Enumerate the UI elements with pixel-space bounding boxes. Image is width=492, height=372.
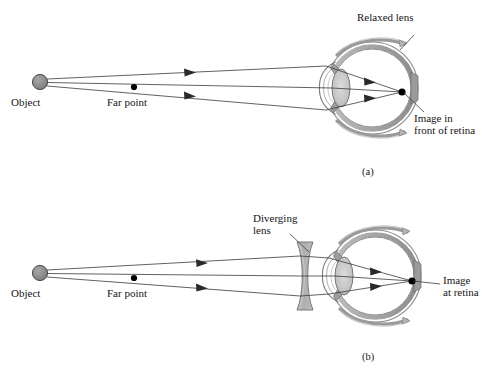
image-label-a-line2: front of retina (414, 124, 475, 136)
far-point-marker-a (131, 84, 137, 90)
far-point-marker-b (131, 275, 137, 281)
far-point-label-b: Far point (107, 287, 147, 299)
image-label-a-line1: Image in (414, 112, 453, 124)
object-marker-a (32, 74, 47, 89)
figure-root: Object Far point Relaxed lens Image in f… (0, 0, 492, 372)
image-label-b-line1: Image (443, 274, 471, 286)
diverging-lens-label-b-line2: lens (253, 224, 271, 236)
ray-axis-incident-b (47, 274, 300, 277)
ray-arrowhead-lower-b (196, 284, 208, 292)
ray-lower-incident-b (47, 277, 300, 296)
ray-axis-incident-a (47, 83, 332, 89)
panel-label-b: (b) (362, 351, 375, 363)
ray-upper-incident-b (47, 256, 300, 270)
diverging-lens-label-b-line1: Diverging (253, 212, 298, 224)
image-label-b-line2: at retina (443, 286, 479, 298)
panel-a: Object Far point Relaxed lens Image in f… (11, 11, 475, 178)
panel-b: Object Far point Diverging lens Image at… (11, 212, 479, 363)
image-point-marker-a (398, 88, 405, 95)
panel-label-a: (a) (362, 166, 374, 178)
far-point-label-a: Far point (107, 96, 147, 108)
object-label-a: Object (11, 96, 40, 108)
ray-arrowhead-upper-b (196, 259, 208, 267)
optic-nerve-b (414, 260, 421, 292)
object-marker-b (32, 265, 47, 280)
optic-nerve-a (411, 72, 418, 104)
relaxed-lens-label-a: Relaxed lens (357, 11, 414, 23)
optics-figure-svg: Object Far point Relaxed lens Image in f… (0, 0, 492, 372)
ray-arrowhead-upper-a (184, 69, 196, 77)
object-label-b: Object (11, 287, 40, 299)
